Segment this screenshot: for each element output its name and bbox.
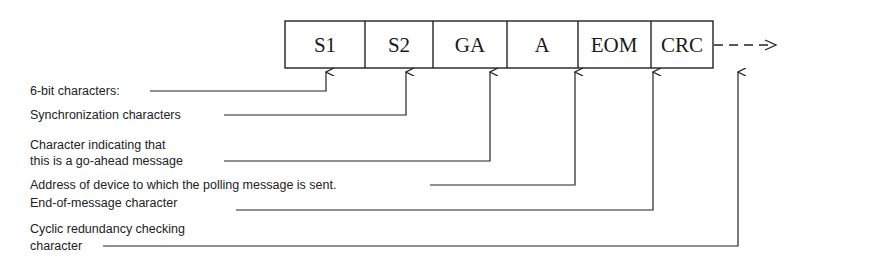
annotation-eom: End-of-message character: [30, 196, 177, 211]
field-s1: S1: [314, 33, 336, 57]
continuation-arrow-icon: [714, 40, 776, 50]
message-frame: [285, 21, 713, 68]
field-a: A: [534, 33, 550, 57]
field-eom: EOM: [591, 33, 638, 57]
frame-outline: [285, 21, 713, 68]
leader-a: [430, 72, 575, 185]
annotation-crc-line1: Cyclic redundancy checking: [30, 222, 185, 237]
field-ga: GA: [455, 33, 486, 57]
annotation-crc-line2: character: [30, 239, 82, 254]
leader-s2: [224, 72, 406, 115]
leader-s1: [150, 72, 326, 91]
annotation-sync: Synchronization characters: [30, 108, 181, 123]
field-labels: S1 S2 GA A EOM CRC: [314, 33, 703, 57]
annotation-six-bit: 6-bit characters:: [30, 84, 120, 99]
annotation-go-ahead-line1: Character indicating that: [30, 138, 166, 153]
annotation-address: Address of device to which the polling m…: [30, 178, 336, 193]
leader-crc: [103, 72, 738, 246]
field-s2: S2: [388, 33, 410, 57]
field-crc: CRC: [661, 33, 703, 57]
annotation-go-ahead-line2: this is a go-ahead message: [30, 154, 183, 169]
leader-lines: [103, 72, 738, 246]
leader-ga: [224, 72, 490, 161]
